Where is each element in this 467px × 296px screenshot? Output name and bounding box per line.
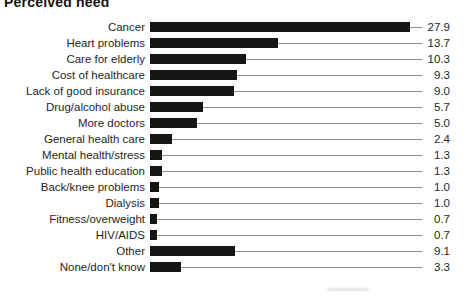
bar-chart-rows: Cancer27.9Heart problems13.7Care for eld… [0, 19, 450, 275]
bar-area [150, 214, 422, 224]
perceived-need-bar-chart: Perceived need Cancer27.9Heart problems1… [0, 0, 467, 296]
leader-line [203, 107, 422, 108]
category-label: Mental health/stress [0, 149, 150, 161]
chart-row: Back/knee problems1.0 [0, 179, 450, 195]
bar-area [150, 182, 422, 192]
category-label: Fitness/overweight [0, 213, 150, 225]
value-label: 1.3 [422, 165, 450, 177]
value-label: 1.0 [422, 181, 450, 193]
leader-line [162, 155, 422, 156]
bar [150, 198, 159, 208]
category-label: Other [0, 245, 150, 257]
value-label: 9.3 [422, 69, 450, 81]
chart-row: Drug/alcohol abuse5.7 [0, 99, 450, 115]
chart-row: Cancer27.9 [0, 19, 450, 35]
category-label: None/don't know [0, 261, 150, 273]
leader-line [162, 171, 422, 172]
bar-area [150, 70, 422, 80]
chart-row: Fitness/overweight0.7 [0, 211, 450, 227]
value-label: 13.7 [422, 37, 450, 49]
bar-area [150, 54, 422, 64]
bar [150, 262, 181, 272]
chart-row: Public health education1.3 [0, 163, 450, 179]
bar-area [150, 150, 422, 160]
value-label: 0.7 [422, 229, 450, 241]
value-label: 9.0 [422, 85, 450, 97]
category-label: Care for elderly [0, 53, 150, 65]
value-label: 0.7 [422, 213, 450, 225]
bar [150, 70, 237, 80]
category-label: General health care [0, 133, 150, 145]
leader-line [278, 43, 422, 44]
category-label: Dialysis [0, 197, 150, 209]
category-label: More doctors [0, 117, 150, 129]
chart-row: Dialysis1.0 [0, 195, 450, 211]
bar [150, 230, 157, 240]
bar [150, 134, 172, 144]
chart-title: Perceived need [4, 0, 110, 10]
leader-line [181, 267, 422, 268]
value-label: 1.0 [422, 197, 450, 209]
bar [150, 54, 246, 64]
chart-row: Cost of healthcare9.3 [0, 67, 450, 83]
value-label: 27.9 [422, 21, 450, 33]
bar-area [150, 166, 422, 176]
bar-area [150, 118, 422, 128]
bar [150, 182, 159, 192]
value-label: 3.3 [422, 261, 450, 273]
leader-line [237, 75, 422, 76]
chart-row: HIV/AIDS0.7 [0, 227, 450, 243]
leader-line [157, 219, 422, 220]
bar [150, 246, 235, 256]
chart-row: Heart problems13.7 [0, 35, 450, 51]
value-label: 9.1 [422, 245, 450, 257]
category-label: Back/knee problems [0, 181, 150, 193]
bar [150, 22, 410, 32]
value-label: 1.3 [422, 149, 450, 161]
bar-area [150, 22, 422, 32]
bar [150, 38, 278, 48]
leader-line [246, 59, 422, 60]
leader-line [197, 123, 422, 124]
bar-area [150, 38, 422, 48]
bar-area [150, 262, 422, 272]
leader-line [172, 139, 422, 140]
bar [150, 150, 162, 160]
bar [150, 86, 234, 96]
value-label: 5.7 [422, 101, 450, 113]
bar [150, 102, 203, 112]
leader-line [410, 27, 422, 28]
bar [150, 214, 157, 224]
leader-line [235, 251, 422, 252]
chart-row: Care for elderly10.3 [0, 51, 450, 67]
bar-area [150, 86, 422, 96]
chart-row: Other9.1 [0, 243, 450, 259]
leader-line [234, 91, 422, 92]
chart-row: None/don't know3.3 [0, 259, 450, 275]
bar-area [150, 230, 422, 240]
category-label: Cost of healthcare [0, 69, 150, 81]
bar [150, 118, 197, 128]
leader-line [159, 203, 422, 204]
chart-row: General health care2.4 [0, 131, 450, 147]
bar-area [150, 102, 422, 112]
category-label: Cancer [0, 21, 150, 33]
category-label: HIV/AIDS [0, 229, 150, 241]
bar-area [150, 246, 422, 256]
bar [150, 166, 162, 176]
category-label: Drug/alcohol abuse [0, 101, 150, 113]
leader-line [157, 235, 422, 236]
category-label: Public health education [0, 165, 150, 177]
chart-row: Mental health/stress1.3 [0, 147, 450, 163]
bar-area [150, 198, 422, 208]
chart-row: Lack of good insurance9.0 [0, 83, 450, 99]
leader-line [159, 187, 422, 188]
value-label: 10.3 [422, 53, 450, 65]
value-label: 2.4 [422, 133, 450, 145]
bar-area [150, 134, 422, 144]
category-label: Heart problems [0, 37, 150, 49]
category-label: Lack of good insurance [0, 85, 150, 97]
chart-row: More doctors5.0 [0, 115, 450, 131]
value-label: 5.0 [422, 117, 450, 129]
scan-artifact [327, 288, 369, 291]
